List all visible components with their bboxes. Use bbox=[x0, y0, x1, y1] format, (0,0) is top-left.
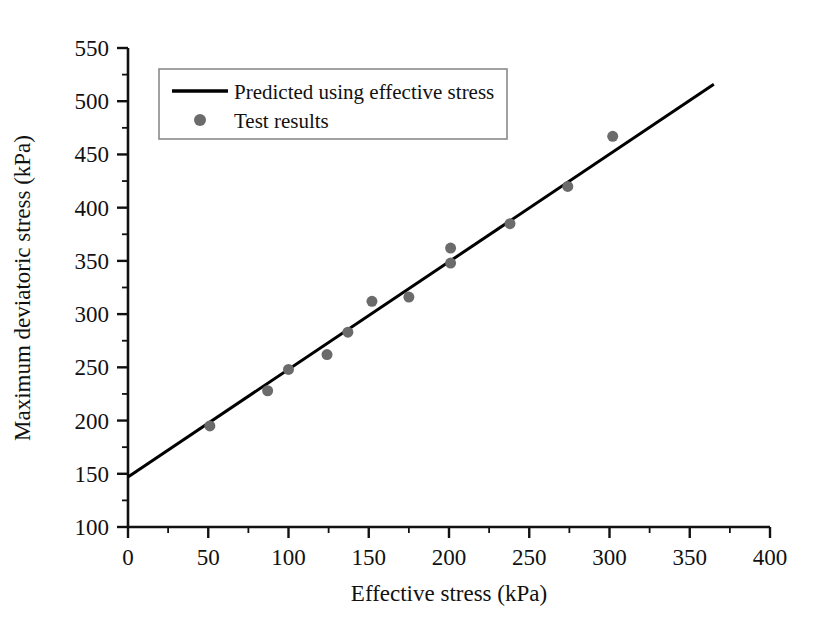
data-point-10 bbox=[562, 181, 573, 192]
x-tick-label-300: 300 bbox=[592, 545, 627, 570]
data-point-8 bbox=[445, 258, 456, 269]
data-point-9 bbox=[504, 218, 515, 229]
y-tick-label-450: 450 bbox=[75, 142, 110, 167]
x-tick-label-100: 100 bbox=[271, 545, 306, 570]
data-point-1 bbox=[262, 385, 273, 396]
y-tick-label-500: 500 bbox=[75, 89, 110, 114]
y-tick-label-100: 100 bbox=[75, 515, 110, 540]
data-point-2 bbox=[283, 364, 294, 375]
y-tick-label-150: 150 bbox=[75, 462, 110, 487]
legend: Predicted using effective stress Test re… bbox=[159, 69, 507, 139]
x-tick-label-50: 50 bbox=[197, 545, 220, 570]
x-tick-label-0: 0 bbox=[122, 545, 134, 570]
data-point-6 bbox=[403, 292, 414, 303]
y-tick-label-400: 400 bbox=[75, 196, 110, 221]
y-axis-title: Maximum deviatoric stress (kPa) bbox=[10, 135, 35, 441]
legend-label-predicted: Predicted using effective stress bbox=[234, 80, 494, 104]
x-axis-title: Effective stress (kPa) bbox=[351, 581, 547, 606]
x-tick-label-250: 250 bbox=[512, 545, 547, 570]
data-point-11 bbox=[607, 131, 618, 142]
legend-label-test-results: Test results bbox=[234, 109, 329, 133]
data-point-5 bbox=[366, 296, 377, 307]
legend-dot-swatch bbox=[194, 114, 206, 126]
scatter-plot: 100150200250300350400450500550 050100150… bbox=[0, 0, 817, 634]
x-tick-label-400: 400 bbox=[753, 545, 788, 570]
data-point-4 bbox=[342, 327, 353, 338]
data-point-3 bbox=[322, 349, 333, 360]
y-tick-label-350: 350 bbox=[75, 249, 110, 274]
data-point-0 bbox=[204, 420, 215, 431]
y-tick-label-300: 300 bbox=[75, 302, 110, 327]
data-point-7 bbox=[445, 243, 456, 254]
x-tick-label-150: 150 bbox=[352, 545, 387, 570]
y-tick-label-250: 250 bbox=[75, 355, 110, 380]
y-tick-label-550: 550 bbox=[75, 36, 110, 61]
x-tick-label-200: 200 bbox=[432, 545, 467, 570]
y-tick-label-200: 200 bbox=[75, 409, 110, 434]
x-tick-label-350: 350 bbox=[673, 545, 708, 570]
chart-figure: 100150200250300350400450500550 050100150… bbox=[0, 0, 817, 634]
